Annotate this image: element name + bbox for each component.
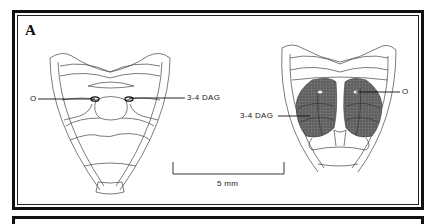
right-dag-label: 3-4 DAG bbox=[240, 111, 273, 120]
stippled-gonad-regions bbox=[296, 78, 382, 137]
left-dag-label: 3-4 DAG bbox=[187, 93, 220, 102]
right-ostium-label: O bbox=[402, 87, 409, 96]
left-ostium-label: O bbox=[30, 94, 37, 103]
specimen-drawings bbox=[0, 0, 435, 224]
left-specimen-drawing bbox=[50, 53, 170, 194]
scale-bar-label: 5 mm bbox=[217, 179, 238, 188]
scale-bar bbox=[173, 162, 284, 174]
